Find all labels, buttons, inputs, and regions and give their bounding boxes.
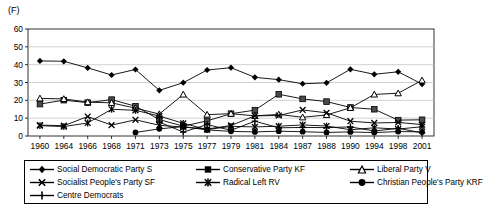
x-tick-label: 1979 [222, 141, 241, 151]
legend-item-radical-left-rv: Radical Left RV [195, 176, 343, 189]
legend-item-christian-peoples-party-krf: Christian People's Party KRF [349, 176, 483, 189]
legend-row: Centre Democrats [29, 189, 424, 202]
chart-svg: 0102030405060196019641966196819711973197… [0, 20, 442, 155]
triangle-marker-icon [349, 164, 375, 175]
legend-row: Social Democratic Party S Conservative P… [29, 163, 424, 176]
y-tick-label: 40 [14, 60, 24, 70]
x-tick-label: 1998 [389, 141, 408, 151]
x-tick-label: 1975 [174, 141, 193, 151]
x-tick-label: 1971 [126, 141, 145, 151]
legend-row: Socialist People's Party SF Radical Left… [29, 176, 424, 189]
x-tick-label: 1968 [102, 141, 121, 151]
legend-item-liberal-party-v: Liberal Party V [349, 163, 431, 176]
data-point [133, 130, 139, 136]
data-point [252, 129, 258, 135]
x-tick-label: 1964 [55, 141, 74, 151]
figure-panel-label: (F) [8, 5, 20, 15]
legend-item-centre-democrats: Centre Democrats [29, 189, 189, 202]
y-tick-label: 60 [14, 24, 24, 34]
x-tick-label: 1988 [317, 141, 336, 151]
x-tick-label: 1973 [150, 141, 169, 151]
x-tick-label: 2001 [413, 141, 432, 151]
y-tick-label: 10 [14, 113, 24, 123]
y-tick-label: 30 [14, 78, 24, 88]
legend-label: Centre Democrats [57, 191, 123, 200]
x-tick-label: 1981 [246, 141, 265, 151]
legend-item-conservative-party-kf: Conservative Party KF [195, 163, 343, 176]
x-tick-label: 1990 [341, 141, 360, 151]
x-marker-icon [29, 177, 55, 188]
legend-item-social-democratic-party-s: Social Democratic Party S [29, 163, 189, 176]
circle-marker-icon [349, 177, 375, 188]
data-point [300, 96, 306, 102]
data-point [276, 91, 282, 97]
legend-label: Conservative Party KF [223, 165, 305, 174]
legend-label: Social Democratic Party S [57, 165, 152, 174]
diamond-marker-icon [29, 164, 55, 175]
legend-item-socialist-peoples-party-sf: Socialist People's Party SF [29, 176, 189, 189]
x-tick-label: 1984 [269, 141, 288, 151]
x-tick-label: 1960 [31, 141, 50, 151]
x-tick-label: 1994 [365, 141, 384, 151]
chart-legend: Social Democratic Party S Conservative P… [24, 160, 428, 204]
square-marker-icon [195, 164, 221, 175]
data-point [324, 99, 330, 105]
x-tick-label: 1987 [293, 141, 312, 151]
legend-label: Socialist People's Party SF [57, 178, 155, 187]
y-tick-label: 20 [14, 95, 24, 105]
chart-plot-area: 0102030405060196019641966196819711973197… [0, 20, 442, 155]
y-tick-label: 50 [14, 42, 24, 52]
x-tick-label: 1966 [78, 141, 97, 151]
data-point [156, 126, 162, 132]
legend-label: Radical Left RV [223, 178, 280, 187]
plus-marker-icon [29, 190, 55, 201]
star-marker-icon [195, 177, 221, 188]
y-tick-label: 0 [18, 131, 23, 141]
data-point [37, 101, 43, 107]
data-point [371, 106, 377, 112]
legend-label: Liberal Party V [377, 165, 431, 174]
data-point [180, 124, 186, 130]
x-tick-label: 1977 [198, 141, 217, 151]
legend-label: Christian People's Party KRF [377, 178, 483, 187]
